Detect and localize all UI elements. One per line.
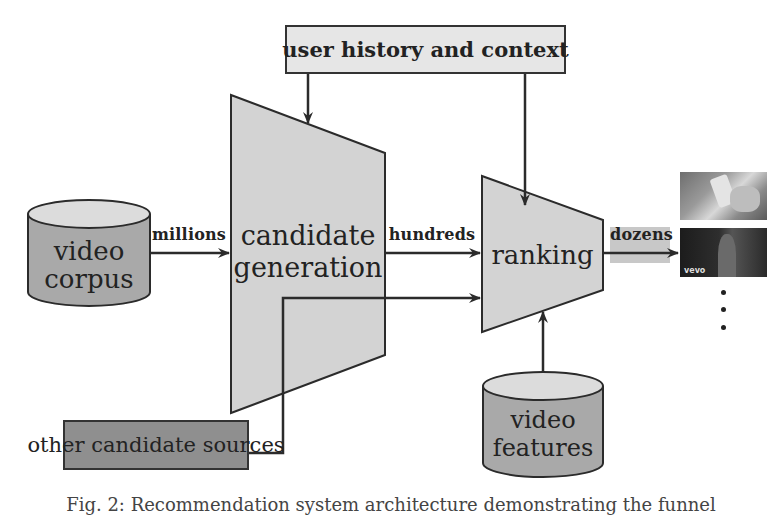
figure-caption: Fig. 2: Recommendation system architectu… [0,494,782,515]
video-features-label-line1: video [483,408,603,432]
ellipsis-dot-2 [721,307,726,312]
ranking-label: ranking [482,242,603,268]
edge-label-millions: millions [150,227,228,243]
video-corpus-label-line2: corpus [28,266,150,292]
hand-shape [730,186,760,212]
silhouette-shape [718,234,736,277]
edge-label-hundreds: hundreds [385,227,479,243]
candidate-generation-label-line1: candidate [231,222,385,249]
other-candidate-sources-label: other candidate sources [27,435,284,456]
edge-label-dozens: dozens [610,227,670,243]
user-history-box: user history and context [285,25,566,74]
video-corpus-label-line1: video [28,238,150,264]
other-candidate-sources-box: other candidate sources [63,420,249,470]
candidate-generation-label-line2: generation [231,254,385,281]
output-video-thumbnail-1 [680,172,767,220]
output-video-thumbnail-2: vevo [680,228,767,277]
user-history-label: user history and context [282,39,568,60]
ellipsis-dot-3 [721,325,726,330]
vevo-watermark: vevo [684,266,705,275]
video-features-label-line2: features [483,436,603,460]
ellipsis-dot-1 [721,290,726,295]
